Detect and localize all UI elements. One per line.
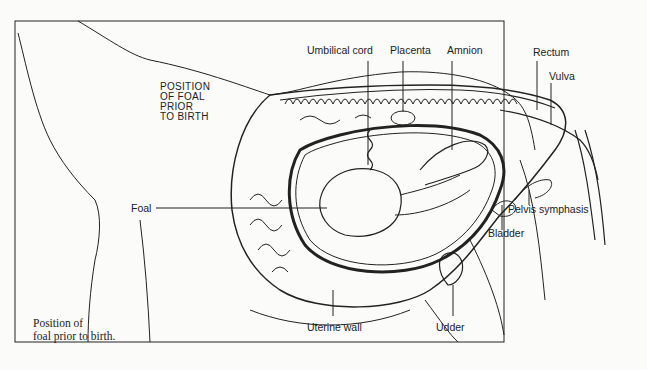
label-udder: Udder	[436, 322, 465, 333]
diagram-figure: POSITION OF FOAL PRIOR TO BIRTH Umbilica…	[0, 0, 647, 370]
diagram-heading: POSITION OF FOAL PRIOR TO BIRTH	[160, 82, 210, 122]
foal-legs	[395, 175, 470, 215]
heading-line-4: TO BIRTH	[160, 112, 210, 122]
horse-hind-leg-2	[470, 240, 504, 335]
intestines-upper	[300, 115, 371, 124]
label-pelvis-symphasis: Pelvis symphasis	[508, 204, 589, 215]
figure-border	[15, 21, 504, 342]
foal-body	[320, 169, 402, 237]
horse-foreleg	[140, 220, 150, 342]
label-rectum: Rectum	[533, 47, 569, 58]
tail	[575, 130, 605, 245]
placenta-drawing	[391, 111, 415, 125]
abdominal-cavity	[231, 85, 565, 307]
label-vulva: Vulva	[549, 71, 575, 82]
label-uterine-wall: Uterine wall	[307, 322, 362, 333]
label-placenta: Placenta	[390, 45, 431, 56]
label-umbilical-cord: Umbilical cord	[307, 45, 373, 56]
label-foal: Foal	[131, 203, 151, 214]
pelvis-drawing	[515, 180, 552, 200]
caption-line-1: Position of	[33, 317, 115, 330]
figure-caption: Position of foal prior to birth.	[33, 317, 115, 343]
caption-line-2: foal prior to birth.	[33, 330, 115, 343]
label-amnion: Amnion	[447, 45, 483, 56]
rectum-tract	[500, 110, 598, 180]
horse-chest-outline	[18, 33, 100, 342]
spine-vertebrae	[285, 99, 517, 104]
intestines	[250, 194, 290, 272]
label-bladder: Bladder	[488, 228, 524, 239]
